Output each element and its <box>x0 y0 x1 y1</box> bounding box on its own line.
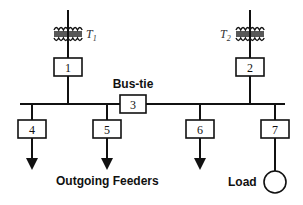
t1-label: T1 <box>86 27 97 43</box>
load-circle-icon <box>264 171 286 193</box>
outgoing-feeders-label: Outgoing Feeders <box>56 174 159 188</box>
breaker-6-label: 6 <box>197 123 203 137</box>
breaker-7-label: 7 <box>272 123 278 137</box>
transformer-t2-icon <box>236 28 264 41</box>
feeder-6-arrow-icon <box>194 158 206 170</box>
t2-label: T2 <box>220 27 231 43</box>
bus-tie-label: Bus-tie <box>113 77 154 91</box>
feeder-4-arrow-icon <box>26 158 38 170</box>
breaker-5-label: 5 <box>104 123 110 137</box>
breaker-3-label: 3 <box>130 98 136 112</box>
breaker-1-label: 1 <box>65 61 71 75</box>
feeder-5-arrow-icon <box>101 158 113 170</box>
single-line-diagram: T1 T2 1 2 3 4 5 6 7 Bus-tie Outgoing Fee… <box>0 0 303 205</box>
breaker-2-label: 2 <box>247 61 253 75</box>
diagram-canvas: T1 T2 1 2 3 4 5 6 7 Bus-tie Outgoing Fee… <box>0 0 303 205</box>
breaker-4-label: 4 <box>29 123 35 137</box>
transformer-t1-icon <box>54 28 82 41</box>
load-label: Load <box>228 175 257 189</box>
